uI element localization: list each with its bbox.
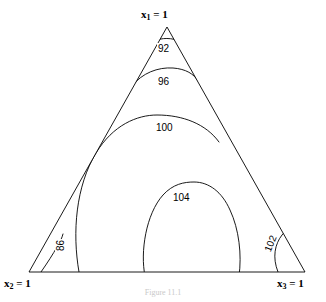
simplex-triangle-outline: [29, 27, 305, 272]
contour-label-96: 96: [157, 76, 170, 87]
contour-label-104: 104: [172, 192, 191, 203]
vertex-label-x1: x1 = 1: [141, 8, 168, 22]
contour-label-92: 92: [157, 43, 170, 54]
vertex-x1-eq: = 1: [151, 8, 168, 20]
contour-label-86: 86: [55, 239, 66, 252]
ternary-contour-figure: x1 = 1 x2 = 1 x3 = 1 92 96 100 104 86 10…: [0, 0, 326, 302]
contour-label-100: 100: [155, 122, 174, 133]
figure-caption: Figure 11.1: [0, 288, 326, 298]
